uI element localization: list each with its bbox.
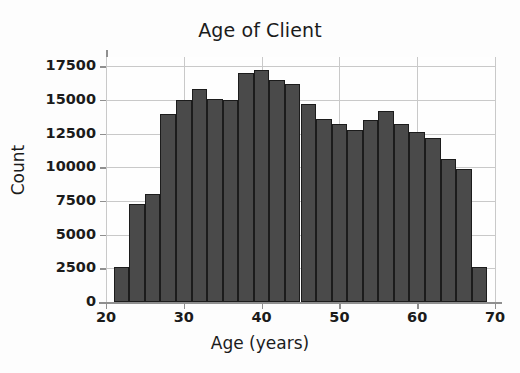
- histogram-bar: [269, 80, 285, 302]
- histogram-bar: [254, 70, 270, 302]
- histogram-bar: [160, 114, 176, 302]
- y-axis-label: Count: [8, 90, 28, 250]
- histogram-bar: [332, 124, 348, 302]
- histogram-bar: [409, 132, 425, 302]
- histogram-bar: [301, 104, 317, 302]
- y-tick-label: 12500: [20, 125, 96, 141]
- y-tick-label: 0: [20, 293, 96, 309]
- plot-area: [106, 57, 495, 302]
- histogram-bar: [223, 100, 239, 302]
- y-tick-label: 2500: [20, 259, 96, 275]
- x-tick-label: 70: [475, 309, 515, 325]
- histogram-bar: [394, 124, 410, 302]
- x-tick-label: 40: [242, 309, 282, 325]
- x-tick-label: 30: [164, 309, 204, 325]
- x-axis-label: Age (years): [0, 333, 520, 353]
- histogram-bar: [192, 89, 208, 302]
- histogram-bar: [425, 138, 441, 302]
- x-tick-label: 20: [86, 309, 126, 325]
- x-tick-label: 60: [397, 309, 437, 325]
- y-tick-label: 15000: [20, 91, 96, 107]
- x-tick-label: 50: [319, 309, 359, 325]
- gridline-horizontal: [106, 66, 495, 67]
- y-tick-label: 7500: [20, 192, 96, 208]
- histogram-bar: [456, 169, 472, 302]
- y-tick-label: 5000: [20, 226, 96, 242]
- histogram-bar: [472, 267, 488, 302]
- histogram-bar: [347, 130, 363, 302]
- histogram-bar: [285, 84, 301, 302]
- x-axis-spine: [99, 302, 502, 304]
- histogram-bar: [176, 100, 192, 302]
- y-tick-label: 17500: [20, 57, 96, 73]
- histogram-bar: [129, 204, 145, 302]
- gridline-vertical: [106, 57, 107, 302]
- chart-title: Age of Client: [0, 19, 520, 41]
- histogram-bar: [207, 99, 223, 302]
- histogram-figure: Age of Client 02500500075001000012500150…: [0, 0, 520, 373]
- histogram-bar: [145, 194, 161, 302]
- histogram-bar: [441, 159, 457, 302]
- histogram-bar: [114, 267, 130, 302]
- gridline-vertical: [495, 57, 496, 302]
- histogram-bar: [363, 120, 379, 302]
- histogram-bar: [238, 73, 254, 302]
- histogram-bar: [316, 119, 332, 302]
- histogram-bar: [378, 111, 394, 302]
- y-tick-label: 10000: [20, 158, 96, 174]
- gridline-horizontal: [106, 100, 495, 101]
